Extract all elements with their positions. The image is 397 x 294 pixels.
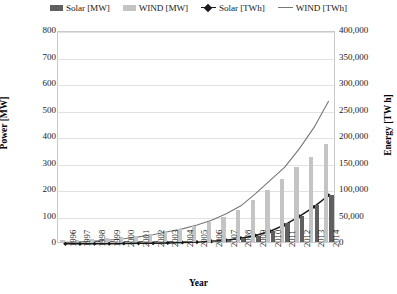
legend-item-label: WIND [MW] [139, 3, 188, 13]
y-axis-right-tick-label: 250,000 [339, 105, 393, 115]
y-axis-left-tick-label: 100 [8, 211, 56, 221]
dual-axis-combo-chart: Solar [MW]WIND [MW]Solar [TWh]WIND [TWh]… [0, 0, 397, 294]
x-axis-tick-label: 2008 [243, 230, 253, 247]
bar-wind-mw [324, 144, 328, 242]
x-axis-tick-label: 2004 [185, 230, 195, 247]
y-axis-left-tick-label: 800 [8, 25, 56, 35]
bar-swatch-icon [50, 5, 63, 11]
line-marker-swatch-icon [201, 4, 216, 12]
y-axis-right-tick-label: 50,000 [339, 211, 393, 221]
y-axis-left-tick-label: 0 [8, 237, 56, 247]
line-swatch-icon [278, 4, 293, 12]
x-axis-tick-label: 2010 [273, 230, 283, 247]
x-axis-tick-label: 2005 [199, 230, 209, 247]
legend-item-wind-twh[interactable]: WIND [TWh] [278, 3, 347, 13]
x-axis-tick-label: 2001 [141, 230, 151, 247]
y-axis-right-title: Energy [TW h] [383, 94, 393, 156]
y-axis-right-tick-label: 0 [339, 237, 393, 247]
y-axis-left-tick-label: 500 [8, 105, 56, 115]
x-axis-tick-label: 1998 [97, 230, 107, 247]
x-axis-title: Year [0, 278, 397, 288]
chart-legend: Solar [MW]WIND [MW]Solar [TWh]WIND [TWh] [0, 3, 397, 13]
plot-area [57, 31, 335, 243]
y-axis-left-tick-label: 400 [8, 131, 56, 141]
y-axis-right-tick-label: 150,000 [339, 158, 393, 168]
x-axis-tick-label: 2012 [302, 230, 312, 247]
x-axis-tick-label: 2009 [258, 230, 268, 247]
legend-item-solar-twh[interactable]: Solar [TWh] [201, 3, 265, 13]
bar-swatch-icon [123, 5, 136, 11]
y-axis-right-tick-label: 400,000 [339, 25, 393, 35]
line-wind-twh [65, 101, 328, 243]
x-axis-tick-label: 2014 [331, 230, 341, 247]
x-axis-tick-label: 1999 [112, 230, 122, 247]
y-axis-left-tick-label: 300 [8, 158, 56, 168]
x-axis-tick-label: 2011 [287, 230, 297, 247]
legend-item-solar-mw[interactable]: Solar [MW] [50, 3, 110, 13]
legend-item-label: WIND [TWh] [296, 3, 347, 13]
legend-item-label: Solar [TWh] [219, 3, 265, 13]
y-axis-right-tick-label: 200,000 [339, 131, 393, 141]
x-axis-tick-label: 2003 [170, 230, 180, 247]
y-axis-right-tick-label: 300,000 [339, 78, 393, 88]
x-axis-tick-label: 2006 [214, 230, 224, 247]
x-axis-tick-label: 2007 [229, 230, 239, 247]
marker-solar-twh [107, 242, 111, 246]
x-axis-tick-label: 1997 [82, 230, 92, 247]
y-axis-left-tick-label: 200 [8, 184, 56, 194]
legend-item-wind-mw[interactable]: WIND [MW] [123, 3, 188, 13]
legend-item-label: Solar [MW] [66, 3, 110, 13]
bar-wind-mw [60, 240, 64, 242]
y-axis-left-tick-label: 700 [8, 52, 56, 62]
y-axis-right-tick-label: 100,000 [339, 184, 393, 194]
y-axis-left-tick-label: 600 [8, 78, 56, 88]
x-axis-tick-label: 2013 [316, 230, 326, 247]
x-axis-tick-label: 2000 [126, 230, 136, 247]
x-axis-tick-label: 2002 [156, 230, 166, 247]
x-axis-tick-label: 1996 [68, 230, 78, 247]
y-axis-right-tick-label: 350,000 [339, 52, 393, 62]
